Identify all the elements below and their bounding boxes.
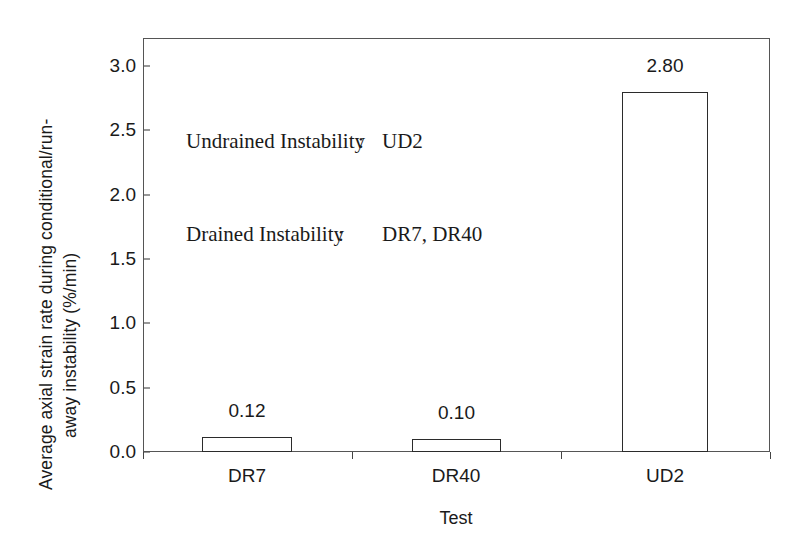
x-axis-title-text: Test bbox=[439, 508, 472, 529]
bar-dr7 bbox=[202, 437, 292, 452]
y-tick-label: 2.0 bbox=[88, 184, 136, 206]
legend: Undrained Instability:UD2 Drained Instab… bbox=[186, 64, 482, 312]
bar-value-dr40: 0.10 bbox=[412, 402, 501, 424]
legend-item-drained-separator: : bbox=[338, 219, 382, 250]
y-axis-title: Average axial strain rate during conditi… bbox=[14, 0, 84, 500]
legend-item-undrained-value: UD2 bbox=[382, 126, 423, 157]
y-tick-label: 1.5 bbox=[88, 248, 136, 270]
legend-item-undrained-label: Undrained Instability bbox=[186, 126, 358, 157]
bar-dr40 bbox=[412, 439, 501, 452]
y-tick-label: 0.0 bbox=[88, 441, 136, 463]
bar-value-ud2: 2.80 bbox=[622, 55, 708, 77]
y-tick-label: 0.5 bbox=[88, 377, 136, 399]
y-axis-title-line-1: Average axial strain rate during conditi… bbox=[36, 119, 57, 490]
y-axis-title-line-2: away instability (%/min) bbox=[60, 253, 81, 438]
legend-item-undrained: Undrained Instability:UD2 bbox=[186, 126, 482, 157]
x-tick-mark bbox=[770, 452, 771, 459]
y-tick-label: 2.5 bbox=[88, 119, 136, 141]
y-tick-label: 3.0 bbox=[88, 55, 136, 77]
y-axis-tick-labels: 3.0 2.5 2.0 1.5 1.0 0.5 0.0 bbox=[86, 0, 136, 557]
legend-item-drained-value: DR7, DR40 bbox=[382, 219, 482, 250]
bar-value-dr7: 0.12 bbox=[202, 400, 292, 422]
legend-item-undrained-separator: : bbox=[358, 126, 382, 157]
chart-figure: Average axial strain rate during conditi… bbox=[0, 0, 807, 557]
legend-item-drained: Drained Instability:DR7, DR40 bbox=[186, 219, 482, 250]
bar-ud2 bbox=[622, 92, 708, 452]
x-tick-mark bbox=[143, 452, 144, 459]
y-tick-label: 1.0 bbox=[88, 312, 136, 334]
legend-item-drained-label: Drained Instability bbox=[186, 219, 338, 250]
x-tick-mark bbox=[352, 452, 353, 459]
x-category-label-dr7: DR7 bbox=[228, 465, 266, 487]
x-category-label-dr40: DR40 bbox=[432, 465, 481, 487]
x-axis-title: Test bbox=[0, 508, 807, 529]
x-tick-mark bbox=[561, 452, 562, 459]
x-category-label-ud2: UD2 bbox=[646, 465, 684, 487]
